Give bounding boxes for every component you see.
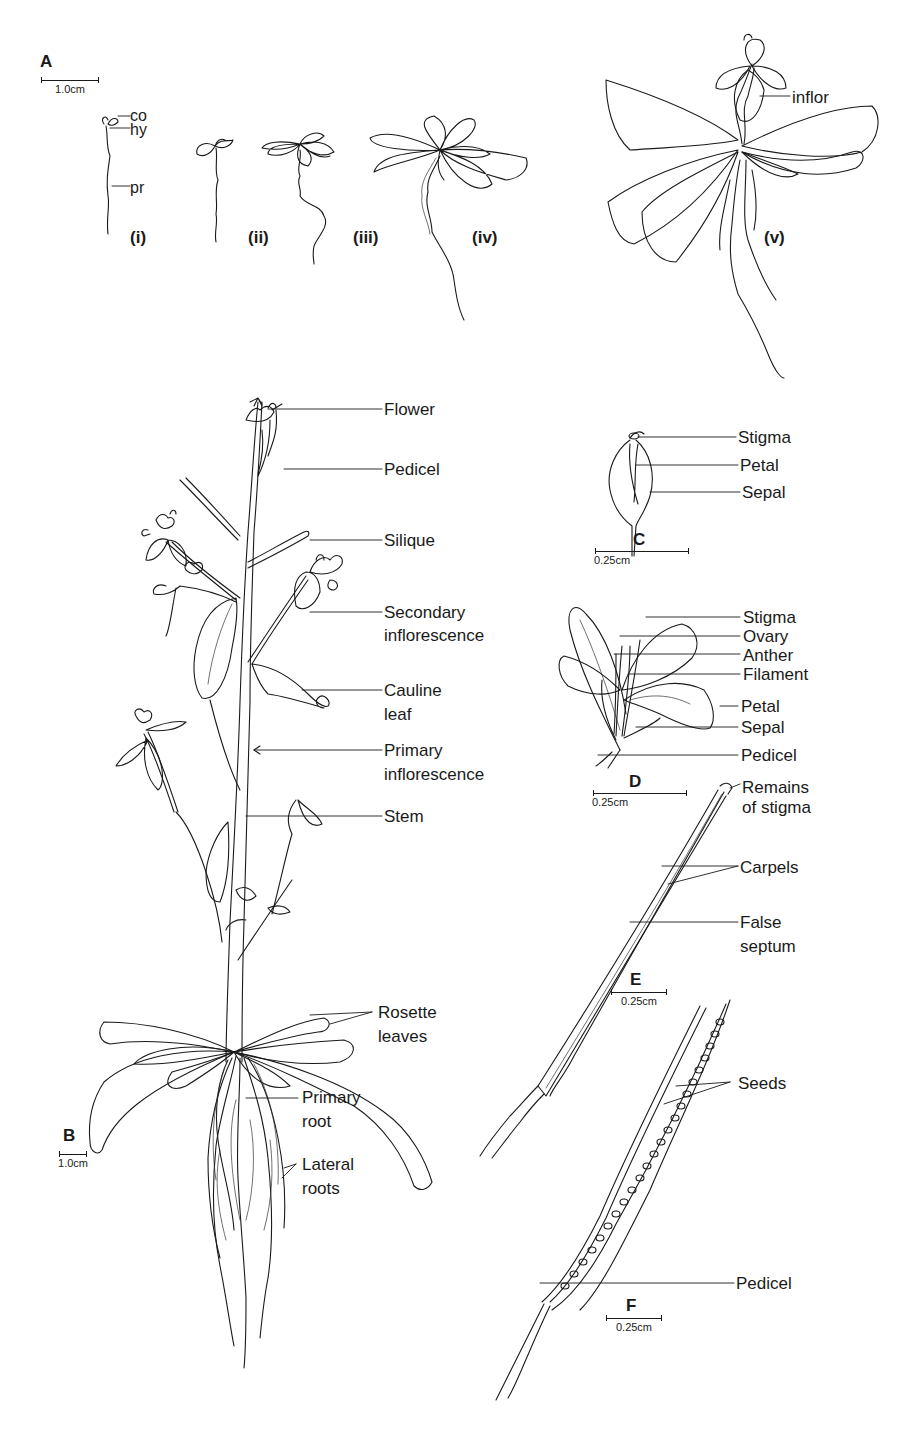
label-cauline-leaf-1: Cauline <box>384 681 442 700</box>
label-pedicel-d: Pedicel <box>741 746 797 765</box>
stage-i-label: (i) <box>130 228 146 248</box>
label-pedicel-b: Pedicel <box>384 460 440 479</box>
mature-plant <box>90 398 432 1368</box>
label-cauline-leaf-2: leaf <box>384 705 411 724</box>
seedling-stage-iv <box>370 116 527 320</box>
label-rosette-leaves-1: Rosette <box>378 1003 437 1022</box>
panel-c-scale-label: 0.25cm <box>594 554 690 566</box>
label-sepal-c: Sepal <box>742 483 785 502</box>
stage-iii-label: (iii) <box>353 228 379 248</box>
stage-v-label: (v) <box>764 228 785 248</box>
label-secondary-inflorescence-1: Secondary <box>384 603 465 622</box>
label-false-septum-2: septum <box>740 937 796 956</box>
label-primary-root-2: root <box>302 1112 331 1131</box>
panel-e-scale-bar: 0.25cm <box>610 992 668 1007</box>
label-primary-root-seedling: pr <box>130 178 144 197</box>
label-lateral-roots-1: Lateral <box>302 1155 354 1174</box>
panel-c-letter: C <box>633 530 645 550</box>
panel-b-scale-label: 1.0cm <box>56 1157 90 1169</box>
label-stigma-c: Stigma <box>738 428 791 447</box>
panel-c-scale-bar: 0.25cm <box>594 551 690 566</box>
label-hypocotyl: hy <box>130 120 147 139</box>
panel-e-letter: E <box>630 970 641 990</box>
seedling-stage-i <box>103 116 130 234</box>
panel-d-letter: D <box>629 772 641 792</box>
panel-b-leaders <box>246 409 382 1178</box>
label-lateral-roots-2: roots <box>302 1179 340 1198</box>
panel-f-scale-bar: 0.25cm <box>604 1318 664 1333</box>
stage-ii-label: (ii) <box>248 228 269 248</box>
label-primary-inflorescence-1: Primary <box>384 741 443 760</box>
seedling-stage-ii <box>197 139 233 242</box>
label-filament: Filament <box>743 665 808 684</box>
panel-a-scale-bar: 1.0cm <box>40 80 100 95</box>
label-ovary: Ovary <box>743 627 788 646</box>
label-remains-of-stigma-1: Remains <box>742 778 809 797</box>
label-silique: Silique <box>384 531 435 550</box>
label-pedicel-f: Pedicel <box>736 1274 792 1293</box>
label-primary-inflorescence-2: inflorescence <box>384 765 484 784</box>
flower-bud <box>609 432 740 556</box>
seedling-stage-v <box>606 34 878 378</box>
panel-a-scale-label: 1.0cm <box>40 83 100 95</box>
label-primary-root-1: Primary <box>302 1088 361 1107</box>
label-remains-of-stigma-2: of stigma <box>742 798 811 817</box>
panel-d-scale-label: 0.25cm <box>592 796 688 808</box>
seed-row <box>561 1019 724 1289</box>
panel-a-letter: A <box>40 52 52 72</box>
label-sepal-d: Sepal <box>741 718 784 737</box>
label-secondary-inflorescence-2: inflorescence <box>384 626 484 645</box>
label-seeds: Seeds <box>738 1074 786 1093</box>
open-flower <box>559 607 740 768</box>
label-petal-c: Petal <box>740 456 779 475</box>
seedling-stage-iii <box>262 133 334 264</box>
label-rosette-leaves-2: leaves <box>378 1027 427 1046</box>
stage-iv-label: (iv) <box>472 228 498 248</box>
plant-illustration <box>0 0 900 1434</box>
label-stigma-d: Stigma <box>743 608 796 627</box>
label-anther: Anther <box>743 646 793 665</box>
panel-e-scale-label: 0.25cm <box>610 995 668 1007</box>
silique-opened <box>496 1000 734 1400</box>
label-inflorescence-stage-v: inflor <box>792 88 829 107</box>
label-false-septum-1: False <box>740 913 782 932</box>
label-stem: Stem <box>384 807 424 826</box>
panel-f-letter: F <box>626 1296 636 1316</box>
label-carpels: Carpels <box>740 858 799 877</box>
panel-f-scale-label: 0.25cm <box>604 1321 664 1333</box>
panel-b-scale-bar: 1.0cm <box>56 1154 90 1169</box>
silique-closed <box>480 783 740 1158</box>
label-petal-d: Petal <box>741 697 780 716</box>
panel-d-scale-bar: 0.25cm <box>592 793 688 808</box>
label-flower: Flower <box>384 400 435 419</box>
panel-b-letter: B <box>63 1126 75 1146</box>
